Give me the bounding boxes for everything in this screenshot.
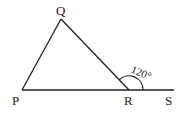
segment-pq xyxy=(22,19,61,90)
segment-qr xyxy=(61,19,129,90)
angle-label: 120° xyxy=(129,63,153,82)
label-r: R xyxy=(124,93,133,108)
triangle-diagram: Q P R S 120° xyxy=(0,0,186,114)
label-q: Q xyxy=(56,3,66,18)
label-s: S xyxy=(165,93,172,108)
label-p: P xyxy=(12,93,19,108)
